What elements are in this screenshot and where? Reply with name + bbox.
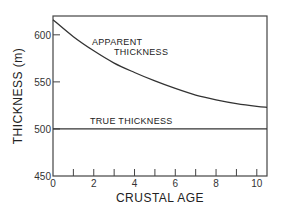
svg-text:600: 600 [34, 30, 51, 41]
svg-text:500: 500 [34, 124, 51, 135]
svg-text:2: 2 [91, 178, 97, 189]
svg-text:450: 450 [34, 171, 51, 182]
y-axis-label: THICKNESS (m) [11, 48, 25, 145]
svg-text:10: 10 [251, 178, 263, 189]
x-axis-label: CRUSTAL AGE [116, 191, 204, 205]
plot-frame [53, 16, 267, 176]
svg-text:550: 550 [34, 77, 51, 88]
svg-text:8: 8 [213, 178, 219, 189]
apparent-annotation-line1: APPARENT [92, 37, 142, 47]
svg-text:6: 6 [173, 178, 179, 189]
chart: 0246810450500550600 CRUSTAL AGE THICKNES… [0, 0, 284, 218]
series-line [53, 20, 267, 108]
true-thickness-annotation: TRUE THICKNESS [90, 116, 173, 126]
svg-text:4: 4 [132, 178, 138, 189]
data-lines [53, 20, 267, 129]
svg-text:0: 0 [50, 178, 56, 189]
apparent-annotation-line2: THICKNESS [114, 47, 168, 57]
